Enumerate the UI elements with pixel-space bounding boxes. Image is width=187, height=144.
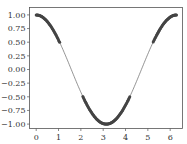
x-tick-label: 1 (56, 133, 61, 142)
y-tick-label: 0.75 (8, 24, 26, 33)
data-marker (58, 41, 61, 44)
y-tick-label: 0.50 (8, 38, 26, 47)
y-tick-label: −1.00 (1, 120, 26, 129)
y-tick-label: −0.25 (1, 79, 26, 88)
x-tick-label: 5 (145, 133, 150, 142)
x-tick-label: 2 (78, 133, 83, 142)
marker-series (35, 13, 178, 125)
y-tick-label: −0.75 (1, 106, 26, 115)
x-tick-label: 4 (123, 133, 128, 142)
y-tick-label: −0.50 (1, 93, 26, 102)
data-marker (128, 95, 131, 98)
data-marker (175, 13, 178, 16)
y-tick-label: 1.00 (8, 11, 26, 20)
plot-frame (30, 8, 183, 129)
x-tick-label: 0 (34, 133, 39, 142)
x-tick-label: 3 (101, 133, 106, 142)
cos-line (36, 15, 176, 124)
y-tick-label: 0.25 (8, 52, 26, 61)
y-tick-label: 0.00 (8, 65, 26, 74)
x-tick-label: 6 (168, 133, 173, 142)
y-axis: 1.000.750.500.250.00−0.25−0.50−0.75−1.00 (1, 11, 30, 129)
x-axis: 0123456 (34, 129, 173, 142)
cosine-chart: 1.000.750.500.250.00−0.25−0.50−0.75−1.00… (0, 0, 187, 144)
